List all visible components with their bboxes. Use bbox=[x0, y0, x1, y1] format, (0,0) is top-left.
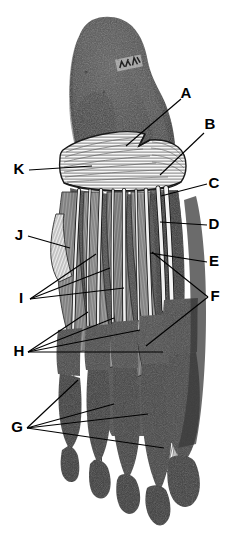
leader-line-d bbox=[160, 222, 207, 225]
label-j: J bbox=[15, 226, 23, 243]
label-i: I bbox=[19, 289, 23, 306]
label-a: A bbox=[181, 84, 192, 101]
label-e: E bbox=[209, 252, 219, 269]
label-b: B bbox=[205, 115, 216, 132]
label-k: K bbox=[14, 160, 25, 177]
annotation-layer: ABCDEFGHIJK bbox=[0, 0, 243, 539]
anatomical-figure: ABCDEFGHIJK bbox=[0, 0, 243, 539]
leader-line-c bbox=[161, 184, 207, 196]
label-f: F bbox=[210, 287, 219, 304]
label-d: D bbox=[209, 215, 220, 232]
label-g: G bbox=[11, 418, 23, 435]
leader-line-b bbox=[160, 133, 204, 175]
leader-lines-group bbox=[27, 99, 208, 448]
leader-line-g bbox=[27, 414, 148, 428]
leader-line-f bbox=[152, 252, 208, 297]
leader-line-j bbox=[28, 236, 70, 248]
label-c: C bbox=[209, 174, 220, 191]
leader-line-f bbox=[146, 297, 208, 346]
leader-line-k bbox=[29, 166, 92, 170]
label-h: H bbox=[14, 342, 25, 359]
leader-line-g bbox=[27, 428, 164, 448]
leader-line-a bbox=[126, 99, 181, 146]
